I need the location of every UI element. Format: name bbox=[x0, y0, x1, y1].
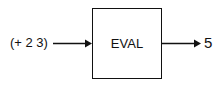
output-value: 5 bbox=[204, 34, 212, 51]
eval-box: EVAL bbox=[92, 8, 162, 79]
arrow-eval-to-output bbox=[162, 40, 201, 48]
eval-label: EVAL bbox=[93, 36, 161, 51]
arrow-input-to-eval bbox=[53, 40, 92, 48]
